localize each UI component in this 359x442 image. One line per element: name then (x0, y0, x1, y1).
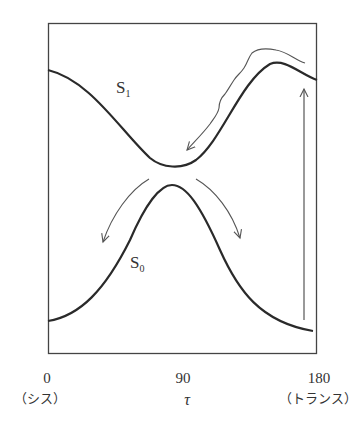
s0-label: S0 (130, 253, 144, 274)
right-decay-arrow (196, 179, 240, 238)
tau-label: τ (184, 391, 191, 408)
s0-curve (48, 185, 313, 331)
tick-180-note: （トランス） (279, 391, 357, 406)
potential-energy-diagram: S1 S0 0 （シス） 90 τ 180 （トランス） (0, 0, 359, 442)
left-decay-arrow (103, 179, 149, 242)
s1-label: S1 (116, 78, 130, 99)
tick-0-value: 0 (43, 370, 51, 386)
tick-90-value: 90 (176, 370, 191, 386)
tick-0-note: （シス） (14, 391, 66, 406)
s1-curve (48, 63, 317, 167)
tick-180-value: 180 (308, 370, 331, 386)
